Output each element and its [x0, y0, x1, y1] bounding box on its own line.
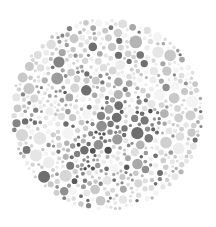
ishihara-plate-canvas	[0, 0, 216, 227]
ishihara-plate	[0, 0, 216, 227]
